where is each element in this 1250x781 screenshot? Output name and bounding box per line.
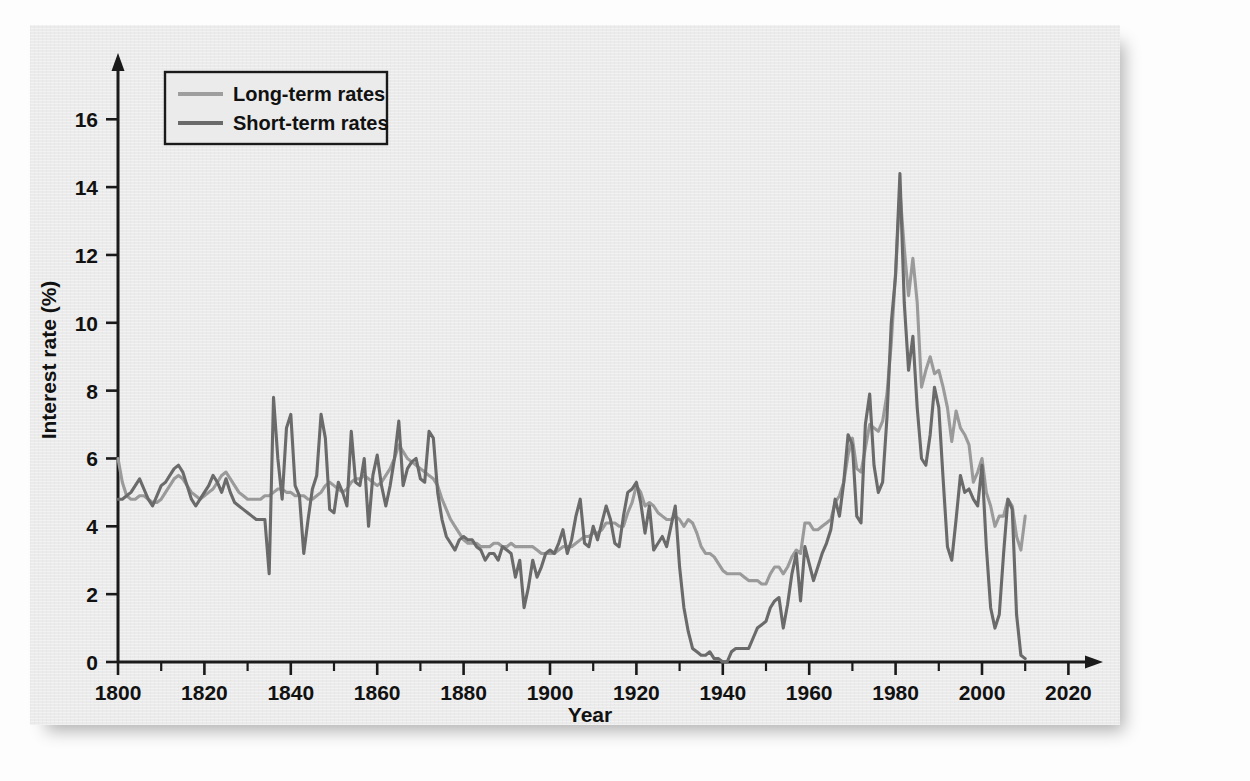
y-tick-label: 6 <box>86 447 98 470</box>
x-tick-label: 2000 <box>959 681 1006 704</box>
x-tick-label: 1800 <box>95 681 142 704</box>
chart-series-group <box>118 174 1025 662</box>
x-axis-tick-labels: 1800182018401860188019001920194019601980… <box>95 681 1092 704</box>
x-tick-label: 1920 <box>613 681 660 704</box>
y-tick-label: 14 <box>75 176 99 199</box>
legend-label-long-term-rates: Long-term rates <box>233 83 385 105</box>
page-background: 0246810121416 Interest rate (%) 18001820… <box>0 0 1250 781</box>
x-tick-label: 2020 <box>1045 681 1092 704</box>
x-axis-arrow-icon <box>1085 656 1103 669</box>
y-axis: 0246810121416 Interest rate (%) <box>37 53 125 674</box>
y-axis-title: Interest rate (%) <box>37 281 60 440</box>
y-tick-label: 8 <box>86 380 98 403</box>
x-tick-label: 1900 <box>527 681 574 704</box>
x-tick-label: 1860 <box>354 681 401 704</box>
chart-legend: Long-term rates Short-term rates <box>165 72 389 144</box>
y-tick-label: 2 <box>86 583 98 606</box>
x-tick-label: 1820 <box>181 681 228 704</box>
x-tick-label: 1980 <box>872 681 919 704</box>
y-axis-arrow-icon <box>112 53 125 71</box>
y-axis-tick-labels: 0246810121416 <box>75 108 99 674</box>
y-tick-label: 4 <box>86 515 98 538</box>
y-tick-label: 0 <box>86 651 98 674</box>
x-tick-label: 1940 <box>699 681 746 704</box>
y-tick-label: 16 <box>75 108 98 131</box>
x-tick-label: 1960 <box>786 681 833 704</box>
x-tick-label: 1840 <box>267 681 314 704</box>
interest-rate-figure-panel: 0246810121416 Interest rate (%) 18001820… <box>30 25 1120 725</box>
x-tick-label: 1880 <box>440 681 487 704</box>
cropped-caption-sliver <box>0 0 1250 9</box>
interest-rate-line-chart: 0246810121416 Interest rate (%) 18001820… <box>30 25 1120 725</box>
x-axis-title: Year <box>568 703 612 725</box>
y-tick-label: 12 <box>75 244 98 267</box>
legend-label-short-term-rates: Short-term rates <box>233 112 389 134</box>
x-axis: 1800182018401860188019001920194019601980… <box>95 656 1103 726</box>
series-line-short-term-rates <box>118 174 1025 662</box>
y-tick-label: 10 <box>75 312 98 335</box>
y-axis-ticks <box>106 119 118 662</box>
